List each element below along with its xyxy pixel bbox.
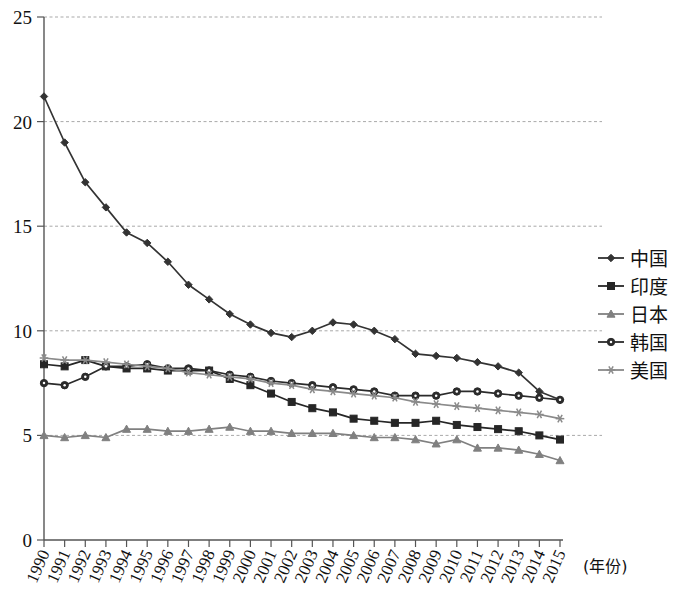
chart-canvas: 2520151050 19901991199219931994199519961… xyxy=(0,0,683,597)
marker-square xyxy=(557,436,564,443)
marker-diamond xyxy=(350,321,357,328)
marker-diamond xyxy=(494,363,501,370)
marker-asterisk xyxy=(514,409,523,416)
marker-square xyxy=(474,424,481,431)
legend-label: 美国 xyxy=(630,360,668,382)
y-tick-label: 0 xyxy=(23,530,33,551)
series-2 xyxy=(40,423,564,464)
marker-square xyxy=(61,363,68,370)
series-line xyxy=(44,427,560,460)
axes xyxy=(37,17,563,540)
marker-asterisk xyxy=(432,400,441,407)
series-0 xyxy=(40,93,563,404)
y-tick-label: 20 xyxy=(13,112,32,133)
marker-circle-hole xyxy=(538,396,541,399)
y-tick-label: 15 xyxy=(13,216,32,237)
marker-square xyxy=(453,421,460,428)
marker-square xyxy=(391,419,398,426)
marker-circle-hole xyxy=(456,390,459,393)
marker-diamond xyxy=(329,319,336,326)
y-tick-label: 5 xyxy=(23,425,33,446)
marker-circle-hole xyxy=(208,369,211,372)
marker-diamond xyxy=(607,254,614,261)
marker-square xyxy=(515,428,522,435)
marker-diamond xyxy=(40,93,47,100)
marker-circle-hole xyxy=(559,399,562,402)
marker-square xyxy=(329,409,336,416)
series-line xyxy=(44,360,560,439)
marker-square xyxy=(371,417,378,424)
marker-circle-hole xyxy=(497,392,500,395)
marker-square xyxy=(268,390,275,397)
marker-circle-hole xyxy=(105,365,108,368)
marker-diamond xyxy=(453,354,460,361)
marker-circle-hole xyxy=(43,382,46,385)
legend-label: 日本 xyxy=(630,304,668,326)
marker-diamond xyxy=(288,333,295,340)
marker-asterisk xyxy=(473,404,482,411)
line-chart: 2520151050 19901991199219931994199519961… xyxy=(0,0,683,597)
series-1 xyxy=(41,357,564,443)
marker-circle-hole xyxy=(517,394,520,397)
marker-circle-hole xyxy=(311,384,314,387)
marker-square xyxy=(309,405,316,412)
marker-circle-hole xyxy=(476,390,479,393)
legend-label: 中国 xyxy=(630,248,668,270)
marker-diamond xyxy=(474,358,481,365)
marker-square xyxy=(288,398,295,405)
legend-item-2[interactable]: 印度 xyxy=(598,276,668,298)
marker-square xyxy=(350,415,357,422)
series-layer xyxy=(40,93,565,464)
marker-asterisk xyxy=(556,415,565,422)
marker-square xyxy=(608,283,615,290)
marker-asterisk xyxy=(453,402,462,409)
marker-circle-hole xyxy=(187,367,190,370)
marker-circle-hole xyxy=(352,388,355,391)
legend-label: 印度 xyxy=(630,276,668,298)
x-tick-marks xyxy=(44,540,560,547)
marker-diamond xyxy=(432,352,439,359)
x-axis-title: (年份) xyxy=(583,557,627,576)
y-tick-label: 25 xyxy=(13,7,32,28)
marker-diamond xyxy=(267,329,274,336)
marker-asterisk xyxy=(535,411,544,418)
marker-circle-hole xyxy=(63,384,66,387)
marker-diamond xyxy=(247,321,254,328)
x-tick-labels: 1990199119921993199419951996199719981999… xyxy=(22,546,569,585)
legend-item-3[interactable]: 日本 xyxy=(598,304,668,326)
series-3 xyxy=(40,361,563,404)
series-line xyxy=(44,96,560,399)
legend-item-1[interactable]: 中国 xyxy=(598,248,668,270)
marker-circle-hole xyxy=(610,341,613,344)
marker-asterisk xyxy=(607,366,616,373)
marker-square xyxy=(247,382,254,389)
legend: 中国印度日本韩国美国 xyxy=(598,248,668,382)
marker-diamond xyxy=(371,327,378,334)
marker-circle-hole xyxy=(84,376,87,379)
marker-circle-hole xyxy=(414,394,417,397)
marker-diamond xyxy=(309,327,316,334)
marker-triangle xyxy=(453,436,461,443)
marker-circle-hole xyxy=(332,386,335,389)
marker-square xyxy=(41,361,48,368)
legend-item-4[interactable]: 韩国 xyxy=(598,332,668,354)
marker-circle-hole xyxy=(435,394,438,397)
marker-square xyxy=(412,419,419,426)
marker-asterisk xyxy=(494,407,503,414)
marker-square xyxy=(495,426,502,433)
marker-circle-hole xyxy=(373,390,376,393)
legend-label: 韩国 xyxy=(630,332,668,354)
marker-diamond xyxy=(61,139,68,146)
series-line xyxy=(44,364,560,400)
y-tick-labels: 2520151050 xyxy=(13,7,32,551)
marker-square xyxy=(433,417,440,424)
marker-square xyxy=(536,432,543,439)
legend-item-5[interactable]: 美国 xyxy=(598,360,668,382)
y-tick-label: 10 xyxy=(13,321,32,342)
